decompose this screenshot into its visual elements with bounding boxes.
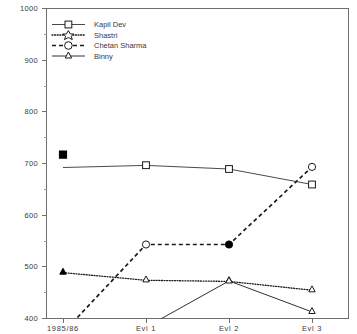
y-axis-labels: 1000 900 800 700 600 500 400 bbox=[20, 4, 38, 323]
ytick-label: 500 bbox=[25, 262, 38, 271]
kapil-dev-marker bbox=[309, 181, 316, 188]
xtick-label: Evl 2 bbox=[219, 324, 239, 333]
chart-legend: Kapil Dev Shastri Chetan Sharma Binny bbox=[52, 20, 147, 61]
shastri-line bbox=[63, 273, 312, 291]
legend-item-shastri: Shastri bbox=[52, 31, 118, 40]
square-icon bbox=[65, 21, 72, 28]
binny-marker bbox=[309, 308, 315, 314]
ytick-label: 800 bbox=[25, 107, 38, 116]
chetan-sharma-line bbox=[63, 167, 312, 333]
series-layer bbox=[59, 151, 315, 333]
shastri-marker bbox=[143, 276, 149, 282]
legend-label: Chetan Sharma bbox=[94, 41, 147, 50]
ytick-label: 900 bbox=[25, 56, 38, 65]
binny-line bbox=[63, 281, 312, 333]
x-axis-labels: 1985/86 Evl 1 Evl 2 Evl 3 bbox=[47, 324, 322, 333]
xtick-label: 1985/86 bbox=[47, 324, 79, 333]
chetan-sharma-marker bbox=[142, 241, 149, 248]
legend-item-kapil-dev: Kapil Dev bbox=[52, 20, 126, 29]
series-binny bbox=[63, 277, 315, 333]
legend-label: Shastri bbox=[94, 31, 118, 40]
x-axis-ticks bbox=[63, 319, 312, 324]
chetan-sharma-marker bbox=[308, 163, 315, 170]
shastri-marker bbox=[60, 268, 66, 274]
y-axis-major-ticks bbox=[42, 9, 47, 319]
line-chart: 1000 900 800 700 600 500 400 1985/86 Evl… bbox=[0, 0, 357, 334]
series-chetan-sharma bbox=[63, 163, 316, 333]
ytick-label: 700 bbox=[25, 159, 38, 168]
chart-container: 1000 900 800 700 600 500 400 1985/86 Evl… bbox=[0, 0, 357, 334]
series-shastri bbox=[60, 268, 315, 292]
ytick-label: 400 bbox=[25, 314, 38, 323]
series-kapil-dev bbox=[59, 151, 315, 188]
legend-label: Binny bbox=[94, 52, 113, 61]
xtick-label: Evl 3 bbox=[302, 324, 322, 333]
shastri-marker bbox=[309, 286, 315, 292]
triangle-icon bbox=[65, 52, 71, 58]
plot-frame bbox=[47, 9, 349, 319]
chetan-sharma-marker bbox=[225, 241, 232, 248]
kapil-dev-line bbox=[63, 165, 312, 184]
kapil-dev-marker bbox=[59, 151, 66, 158]
kapil-dev-marker bbox=[226, 166, 233, 173]
ytick-label: 600 bbox=[25, 211, 38, 220]
kapil-dev-marker bbox=[143, 162, 150, 169]
xtick-label: Evl 1 bbox=[136, 324, 156, 333]
star-icon bbox=[63, 31, 74, 40]
legend-item-binny: Binny bbox=[52, 52, 113, 61]
ytick-label: 1000 bbox=[20, 4, 38, 13]
circle-icon bbox=[65, 42, 73, 50]
legend-item-chetan-sharma: Chetan Sharma bbox=[52, 41, 147, 50]
legend-label: Kapil Dev bbox=[94, 20, 126, 29]
